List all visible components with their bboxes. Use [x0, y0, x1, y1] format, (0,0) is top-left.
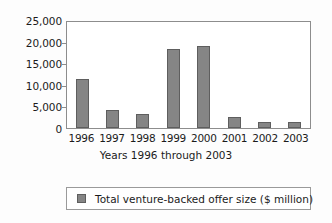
- x-tick-label-2000: 2000: [189, 132, 220, 144]
- bar-slot: [158, 22, 188, 128]
- bar-slot: [128, 22, 158, 128]
- chart-legend: Total venture-backed offer size ($ milli…: [66, 187, 311, 210]
- legend-swatch-series-1: [77, 194, 86, 203]
- bars-layer: [67, 22, 310, 128]
- bar-1996: [76, 79, 89, 128]
- bar-2001: [228, 117, 241, 128]
- x-tick-label-2002: 2002: [250, 132, 281, 144]
- y-tick-label: 25,000: [0, 15, 62, 27]
- bar-slot: [249, 22, 279, 128]
- x-tick-label-1997: 1997: [97, 132, 128, 144]
- y-tick-label: 5,000: [0, 101, 62, 113]
- y-tick-label: 20,000: [0, 37, 62, 49]
- x-tick-label-2003: 2003: [280, 132, 311, 144]
- y-tick-label: 0: [0, 123, 62, 135]
- bar-slot: [67, 22, 97, 128]
- bar-chart-figure: 25,00020,00015,00010,0005,0000 199619971…: [0, 0, 332, 223]
- bar-2003: [288, 122, 301, 128]
- bar-1997: [106, 110, 119, 128]
- bar-2000: [197, 46, 210, 128]
- x-axis: 19961997199819992000200120022003: [66, 132, 311, 144]
- bar-1999: [167, 49, 180, 128]
- x-tick-label-1996: 1996: [66, 132, 97, 144]
- x-tick-label-1998: 1998: [127, 132, 158, 144]
- legend-label-series-1: Total venture-backed offer size ($ milli…: [95, 193, 313, 205]
- bar-slot: [97, 22, 127, 128]
- bar-slot: [219, 22, 249, 128]
- x-axis-title: Years 1996 through 2003: [0, 149, 332, 161]
- y-tick-label: 15,000: [0, 58, 62, 70]
- bar-slot: [280, 22, 310, 128]
- x-tick-label-2001: 2001: [219, 132, 250, 144]
- y-tick-label: 10,000: [0, 80, 62, 92]
- bar-2002: [258, 122, 271, 128]
- y-axis: 25,00020,00015,00010,0005,0000: [0, 0, 62, 223]
- bar-1998: [136, 114, 149, 128]
- plot-area: [66, 21, 311, 129]
- bar-slot: [189, 22, 219, 128]
- x-tick-label-1999: 1999: [158, 132, 189, 144]
